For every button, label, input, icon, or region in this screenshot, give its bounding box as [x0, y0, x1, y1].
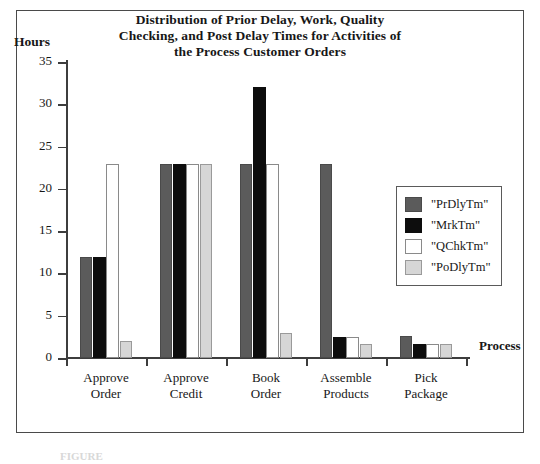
x-axis-tick — [306, 358, 308, 366]
category-label-line: Products — [306, 386, 386, 402]
legend-item: "MrkTm" — [405, 215, 495, 236]
bar — [173, 164, 186, 359]
bar — [333, 337, 346, 358]
bar-group — [306, 62, 386, 358]
bar — [440, 344, 453, 358]
bar — [93, 257, 106, 358]
y-axis-tick-label: 10 — [18, 264, 52, 280]
legend-item: "QChkTm" — [405, 236, 495, 257]
category-label-line: Pick — [386, 370, 466, 386]
chart-title-line: Distribution of Prior Delay, Work, Quali… — [70, 12, 450, 28]
figure-container: Distribution of Prior Delay, Work, Quali… — [0, 0, 540, 464]
x-axis-category-label: BookOrder — [226, 370, 306, 402]
x-axis-tick — [386, 358, 388, 366]
category-label-line: Assemble — [306, 370, 386, 386]
y-axis-tick-label: 5 — [18, 307, 52, 323]
y-axis-tick-label: 15 — [18, 222, 52, 238]
bar — [413, 344, 426, 358]
bar — [320, 164, 333, 359]
chart-title: Distribution of Prior Delay, Work, Quali… — [70, 12, 450, 60]
y-axis-tick-label: 20 — [18, 180, 52, 196]
bar — [186, 164, 199, 359]
category-label-line: Book — [226, 370, 306, 386]
legend-label: "PrDlyTm" — [431, 197, 488, 212]
bar-group — [226, 62, 306, 358]
x-axis-label: Process — [479, 338, 521, 354]
x-axis-tick — [466, 358, 468, 366]
legend-item: "PrDlyTm" — [405, 194, 495, 215]
legend-label: "PoDlyTm" — [431, 260, 491, 275]
bar — [426, 344, 439, 358]
bar — [200, 164, 213, 359]
bar — [346, 337, 359, 358]
legend-swatch-icon — [405, 218, 422, 233]
category-label-line: Order — [226, 386, 306, 402]
y-axis-tick-label: 35 — [18, 53, 52, 69]
bar — [106, 164, 119, 359]
bar — [266, 164, 279, 359]
legend-swatch-icon — [405, 260, 422, 275]
y-axis-label: Hours — [14, 34, 50, 50]
y-axis-tick-label: 0 — [18, 349, 52, 365]
chart-title-line: Checking, and Post Delay Times for Activ… — [70, 28, 450, 44]
y-axis-tick-label: 30 — [18, 95, 52, 111]
bar — [240, 164, 253, 359]
category-label-line: Approve — [66, 370, 146, 386]
bar-group — [146, 62, 226, 358]
chart-legend: "PrDlyTm""MrkTm""QChkTm""PoDlyTm" — [396, 186, 502, 286]
legend-swatch-icon — [405, 239, 422, 254]
figure-caption: FIGURE — [60, 450, 103, 462]
x-axis-tick — [146, 358, 148, 366]
legend-label: "MrkTm" — [431, 218, 480, 233]
legend-label: "QChkTm" — [431, 239, 488, 254]
x-axis-category-label: ApproveOrder — [66, 370, 146, 402]
category-label-line: Approve — [146, 370, 226, 386]
bar-group — [66, 62, 146, 358]
legend-item: "PoDlyTm" — [405, 257, 495, 278]
legend-swatch-icon — [405, 197, 422, 212]
x-axis-tick — [66, 358, 68, 366]
bar — [253, 87, 266, 358]
x-axis-category-label: ApproveCredit — [146, 370, 226, 402]
category-label-line: Order — [66, 386, 146, 402]
bar — [280, 333, 293, 358]
bar — [360, 344, 373, 358]
chart-title-line: the Process Customer Orders — [70, 44, 450, 60]
category-label-line: Credit — [146, 386, 226, 402]
bar — [160, 164, 173, 359]
x-axis-category-label: AssembleProducts — [306, 370, 386, 402]
y-axis-tick-label: 25 — [18, 138, 52, 154]
bar — [120, 341, 133, 358]
category-label-line: Package — [386, 386, 466, 402]
bar — [400, 336, 413, 358]
bar — [80, 257, 93, 358]
x-axis-tick — [226, 358, 228, 366]
x-axis-category-label: PickPackage — [386, 370, 466, 402]
